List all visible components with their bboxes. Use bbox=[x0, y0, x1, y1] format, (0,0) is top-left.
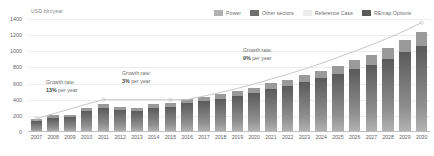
bar-segment-power bbox=[114, 110, 125, 132]
annotation-growth-late-rate: 9% bbox=[243, 55, 251, 61]
bar-segment-other-sectors bbox=[349, 60, 360, 69]
x-axis-tick-label: 2016 bbox=[179, 134, 196, 140]
annotation-growth-early: Growth rate: 13% per year bbox=[46, 79, 78, 94]
bar-slot bbox=[28, 19, 45, 132]
legend-swatch-reference-case bbox=[303, 10, 312, 16]
stacked-bar bbox=[282, 80, 293, 132]
bar-segment-other-sectors bbox=[366, 55, 377, 65]
annotation-growth-mid-rate: 3% bbox=[122, 78, 130, 84]
stacked-bar bbox=[399, 40, 410, 132]
stacked-bar bbox=[349, 60, 360, 132]
annotation-growth-late-suffix: per year bbox=[251, 55, 272, 61]
bar-slot bbox=[62, 19, 79, 132]
stacked-bar bbox=[114, 107, 125, 132]
x-axis-tick-label: 2017 bbox=[196, 134, 213, 140]
bar-slot bbox=[330, 19, 347, 132]
x-axis-tick-label: 2019 bbox=[229, 134, 246, 140]
stacked-bar bbox=[198, 97, 209, 132]
x-axis-tick-label: 2014 bbox=[145, 134, 162, 140]
bar-segment-power bbox=[98, 108, 109, 132]
x-axis-tick-label: 2030 bbox=[413, 134, 430, 140]
bar-segment-power bbox=[47, 118, 58, 132]
bar-slot bbox=[196, 19, 213, 132]
stacked-bar bbox=[315, 71, 326, 132]
stacked-bar bbox=[181, 99, 192, 132]
annotation-growth-early-title: Growth rate: bbox=[46, 79, 78, 87]
stacked-bar bbox=[332, 66, 343, 132]
annotation-growth-mid-value: 3% per year bbox=[122, 78, 151, 86]
annotation-growth-late: Growth rate: 9% per year bbox=[243, 47, 272, 62]
x-axis-tick-label: 2025 bbox=[330, 134, 347, 140]
x-axis-tick-label: 2024 bbox=[313, 134, 330, 140]
stacked-bar bbox=[382, 48, 393, 132]
legend-label-other-sectors: Other sectors bbox=[262, 10, 294, 16]
bar-segment-other-sectors bbox=[299, 75, 310, 82]
annotation-growth-early-rate: 13% bbox=[46, 87, 57, 93]
bar-slot bbox=[179, 19, 196, 132]
annotation-growth-early-value: 13% per year bbox=[46, 87, 78, 95]
y-axis-title: USD bln/year bbox=[31, 8, 63, 14]
stacked-bar bbox=[299, 75, 310, 132]
bar-slot bbox=[313, 19, 330, 132]
bar-segment-power bbox=[265, 89, 276, 132]
stacked-bar bbox=[47, 115, 58, 132]
stacked-bar bbox=[215, 94, 226, 132]
x-axis-tick-label: 2029 bbox=[397, 134, 414, 140]
bar-slot bbox=[263, 19, 280, 132]
bar-slot bbox=[279, 19, 296, 132]
x-axis-tick-label: 2028 bbox=[380, 134, 397, 140]
x-axis-tick-label: 2007 bbox=[28, 134, 45, 140]
bar-slot bbox=[229, 19, 246, 132]
bar-slot bbox=[246, 19, 263, 132]
y-axis-tick-label: 600 bbox=[0, 81, 22, 87]
y-axis-tick-label: 1200 bbox=[0, 33, 22, 39]
legend-label-power: Power bbox=[226, 10, 241, 16]
bar-segment-power bbox=[198, 101, 209, 132]
annotation-growth-mid: Growth rate: 3% per year bbox=[122, 70, 151, 85]
x-axis-tick-label: 2008 bbox=[45, 134, 62, 140]
bar-segment-other-sectors bbox=[416, 32, 427, 45]
x-axis-tick-label: 2013 bbox=[129, 134, 146, 140]
stacked-bar bbox=[81, 108, 92, 132]
bar-segment-power bbox=[416, 46, 427, 132]
x-axis-baseline bbox=[28, 131, 430, 132]
annotation-growth-late-title: Growth rate: bbox=[243, 47, 272, 55]
bar-slot bbox=[78, 19, 95, 132]
bar-segment-power bbox=[165, 107, 176, 132]
y-axis-tick-label: 400 bbox=[0, 97, 22, 103]
stacked-bar bbox=[64, 115, 75, 132]
bar-segment-power bbox=[315, 78, 326, 132]
bar-segment-other-sectors bbox=[332, 66, 343, 74]
y-axis-tick-label: 800 bbox=[0, 65, 22, 71]
x-axis-tick-label: 2011 bbox=[95, 134, 112, 140]
bar-slot bbox=[363, 19, 380, 132]
bar-segment-power bbox=[148, 108, 159, 132]
bar-segment-power bbox=[382, 59, 393, 132]
bar-segment-other-sectors bbox=[315, 71, 326, 79]
bar-segment-power bbox=[366, 65, 377, 132]
x-axis-tick-label: 2023 bbox=[296, 134, 313, 140]
bar-segment-power bbox=[399, 52, 410, 132]
bar-segment-power bbox=[248, 93, 259, 132]
plot-area: 0200400600800100012001400 bbox=[28, 19, 430, 132]
bar-segment-other-sectors bbox=[382, 48, 393, 59]
legend-label-reference-case: Reference Case bbox=[315, 10, 353, 16]
x-axis-tick-label: 2021 bbox=[263, 134, 280, 140]
bar-segment-power bbox=[81, 111, 92, 132]
stacked-bar bbox=[148, 104, 159, 132]
bar-segment-power bbox=[232, 96, 243, 132]
bar-series-group bbox=[28, 19, 430, 132]
stacked-bar bbox=[416, 32, 427, 132]
chart-legend: Power Other sectors Reference Case REmap… bbox=[214, 7, 411, 19]
y-axis-tick-label: 1000 bbox=[0, 49, 22, 55]
stacked-bar bbox=[131, 108, 142, 132]
legend-swatch-other-sectors bbox=[250, 10, 259, 16]
bar-segment-power bbox=[282, 86, 293, 132]
stacked-bar bbox=[366, 55, 377, 132]
stacked-bar bbox=[265, 83, 276, 132]
bar-segment-power bbox=[131, 111, 142, 132]
bar-slot bbox=[162, 19, 179, 132]
bar-slot bbox=[95, 19, 112, 132]
stacked-bar bbox=[248, 88, 259, 132]
bar-slot bbox=[296, 19, 313, 132]
